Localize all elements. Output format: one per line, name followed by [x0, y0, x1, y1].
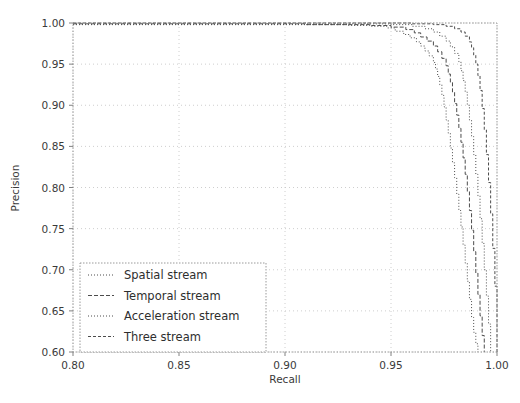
x-tick-label: 1.00: [485, 359, 508, 371]
y-tick-label: 0.90: [42, 99, 65, 111]
legend-label-0: Spatial stream: [124, 268, 208, 282]
legend-label-1: Temporal stream: [123, 289, 221, 303]
y-axis-title: Precision: [9, 165, 21, 212]
x-tick-label: 0.80: [61, 359, 84, 371]
y-tick-label: 0.80: [42, 182, 65, 194]
legend[interactable]: Spatial streamTemporal streamAcceleratio…: [80, 263, 266, 352]
legend-label-2: Acceleration stream: [124, 309, 239, 323]
x-tick-label: 0.85: [167, 359, 190, 371]
y-tick-label: 0.70: [42, 264, 65, 276]
y-tick-label: 0.65: [42, 305, 65, 317]
y-tick-label: 0.85: [42, 140, 65, 152]
y-tick-label: 0.95: [42, 58, 65, 70]
x-axis-title: Recall: [269, 373, 300, 385]
y-tick-label: 1.00: [42, 17, 65, 29]
x-tick-label: 0.95: [379, 359, 402, 371]
legend-label-3: Three stream: [123, 330, 201, 344]
precision-recall-figure: 0.800.850.900.951.00 0.600.650.700.750.8…: [0, 0, 520, 403]
plot-canvas: 0.800.850.900.951.00 0.600.650.700.750.8…: [0, 0, 520, 403]
x-tick-label: 0.90: [273, 359, 296, 371]
y-tick-label: 0.75: [42, 223, 65, 235]
y-tick-label: 0.60: [42, 346, 65, 358]
